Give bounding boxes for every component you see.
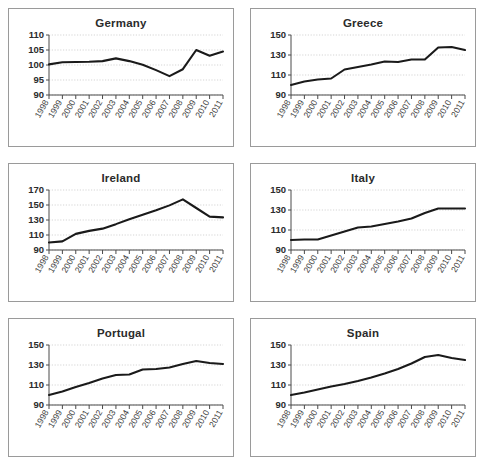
panel-frame: Portugal 9011013015019981999200020012002…: [8, 318, 234, 457]
x-tick-label: 2010: [435, 253, 453, 275]
line-chart-portugal: 9011013015019981999200020012002200320042…: [9, 319, 233, 456]
panel-frame: Italy 9011013015019981999200020012002200…: [250, 163, 476, 302]
chart-panel-germany: Germany 90951001051101998199920002001200…: [0, 0, 242, 155]
y-tick-label: 170: [28, 184, 44, 195]
panel-frame: Spain 9011013015019981999200020012002200…: [250, 318, 476, 457]
x-tick-label: 2011: [449, 253, 467, 274]
y-tick-label: 110: [271, 379, 286, 390]
x-tick-label: 2011: [207, 253, 225, 274]
x-tick-label: 2010: [193, 98, 211, 120]
line-chart-spain: 9011013015019981999200020012002200320042…: [251, 319, 475, 456]
panel-frame: Ireland 90110130150170199819992000200120…: [8, 163, 234, 302]
y-tick-label: 150: [28, 339, 44, 350]
y-tick-label: 105: [28, 44, 45, 55]
data-line: [291, 209, 465, 241]
panel-frame: Germany 90951001051101998199920002001200…: [8, 8, 234, 147]
x-tick-label: 2011: [449, 408, 467, 429]
panel-frame: Greece 901101301501998199920002001200220…: [250, 8, 476, 147]
chart-panel-spain: Spain 9011013015019981999200020012002200…: [242, 310, 484, 465]
data-line: [49, 50, 223, 76]
y-tick-label: 110: [29, 29, 44, 40]
x-tick-label: 2011: [449, 98, 467, 119]
chart-panel-portugal: Portugal 9011013015019981999200020012002…: [0, 310, 242, 465]
y-tick-label: 130: [270, 204, 286, 215]
line-chart-ireland: 9011013015017019981999200020012002200320…: [9, 164, 233, 301]
y-tick-label: 110: [271, 69, 286, 80]
x-tick-label: 2010: [193, 408, 211, 430]
y-tick-label: 110: [29, 229, 44, 240]
x-tick-label: 2011: [207, 98, 225, 119]
chart-grid: Germany 90951001051101998199920002001200…: [0, 0, 484, 465]
y-tick-label: 130: [270, 49, 286, 60]
y-tick-label: 130: [270, 359, 286, 370]
data-line: [291, 355, 465, 395]
y-tick-label: 150: [28, 199, 44, 210]
chart-panel-ireland: Ireland 90110130150170199819992000200120…: [0, 155, 242, 310]
y-tick-label: 130: [28, 359, 44, 370]
line-chart-germany: 9095100105110199819992000200120022003200…: [9, 9, 233, 146]
line-chart-greece: 9011013015019981999200020012002200320042…: [251, 9, 475, 146]
data-line: [291, 47, 465, 85]
y-tick-label: 110: [271, 224, 286, 235]
y-tick-label: 100: [28, 59, 44, 70]
x-tick-label: 2010: [435, 98, 453, 120]
chart-panel-greece: Greece 901101301501998199920002001200220…: [242, 0, 484, 155]
y-tick-label: 110: [29, 379, 44, 390]
line-chart-italy: 9011013015019981999200020012002200320042…: [251, 164, 475, 301]
x-tick-label: 2010: [435, 408, 453, 430]
x-tick-label: 2011: [207, 408, 225, 429]
y-tick-label: 150: [270, 339, 286, 350]
x-tick-label: 2010: [193, 253, 211, 275]
chart-panel-italy: Italy 9011013015019981999200020012002200…: [242, 155, 484, 310]
y-tick-label: 150: [270, 29, 286, 40]
data-line: [49, 199, 223, 242]
data-line: [49, 361, 223, 395]
y-tick-label: 130: [28, 214, 44, 225]
y-tick-label: 150: [270, 184, 286, 195]
y-tick-label: 95: [33, 74, 44, 85]
